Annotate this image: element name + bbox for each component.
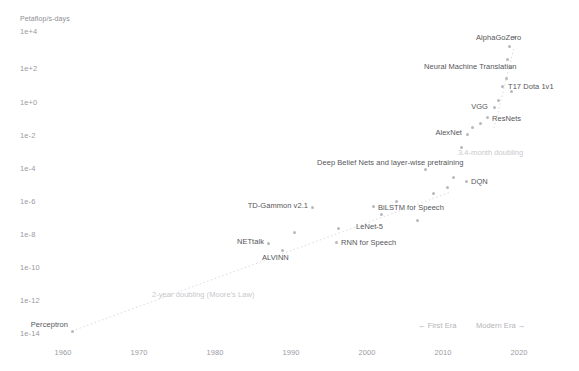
first-era-label: ← First Era [418, 321, 456, 330]
point-nettalk[interactable] [267, 242, 270, 245]
point-dqn[interactable] [465, 180, 468, 183]
point-deep-belief-nets[interactable] [424, 168, 427, 171]
label-deep-belief-nets: Deep Belief Nets and layer-wise pretrain… [317, 158, 421, 168]
point-perceptron[interactable] [71, 330, 74, 333]
point-unlabeled[interactable] [497, 99, 500, 102]
point-unlabeled[interactable] [471, 126, 474, 129]
label-dqn: DQN [471, 177, 511, 187]
point-rnn-for-speech[interactable] [335, 241, 338, 244]
label-td-gammon: TD-Gammon v2.1 [228, 201, 308, 211]
point-lenet-5[interactable] [416, 219, 419, 222]
point-neural-machine-translation[interactable] [505, 77, 508, 80]
label-vgg: VGG [440, 102, 488, 112]
point-unlabeled[interactable] [452, 176, 455, 179]
label-bilstm-for-speech: BiLSTM for Speech [378, 203, 478, 213]
point-alphagozero[interactable] [508, 45, 511, 48]
point-unlabeled[interactable] [506, 58, 509, 61]
point-vgg[interactable] [493, 106, 496, 109]
point-alexnet[interactable] [466, 133, 469, 136]
point-t17-dota-1v1[interactable] [501, 85, 504, 88]
label-moores-law-trend: 2-year doubling (Moore's Law) [152, 290, 255, 299]
label-t17-dota-1v1: T17 Dota 1v1 [508, 82, 578, 92]
label-modern-era-trend: 3.4-month doubling [458, 148, 523, 157]
label-nettalk: NETtalk [200, 237, 264, 247]
label-alphagozero: AlphaGoZero [476, 33, 546, 43]
point-bilstm-for-speech[interactable] [372, 205, 375, 208]
modern-era-label: Modern Era → [476, 321, 525, 330]
point-unlabeled[interactable] [479, 122, 482, 125]
label-alexnet: AlexNet [398, 128, 462, 138]
point-unlabeled[interactable] [337, 227, 340, 230]
label-perceptron: Perceptron [0, 320, 68, 330]
label-lenet-5: LeNet-5 [356, 222, 416, 232]
label-rnn-for-speech: RNN for Speech [341, 238, 431, 248]
label-neural-machine-translation: Neural Machine Translation [424, 62, 500, 72]
ai-and-compute-chart: Petaflop/s-days 1e+4 1e+2 1e+0 1e-2 1e-4… [0, 0, 579, 371]
point-alvinn[interactable] [281, 249, 284, 252]
point-unlabeled[interactable] [446, 186, 449, 189]
label-resnets: ResNets [492, 114, 552, 124]
point-unlabeled[interactable] [293, 231, 296, 234]
point-unlabeled[interactable] [432, 192, 435, 195]
point-unlabeled[interactable] [380, 213, 383, 216]
label-alvinn: ALVINN [262, 253, 322, 263]
point-td-gammon[interactable] [311, 206, 314, 209]
point-resnets[interactable] [486, 116, 489, 119]
